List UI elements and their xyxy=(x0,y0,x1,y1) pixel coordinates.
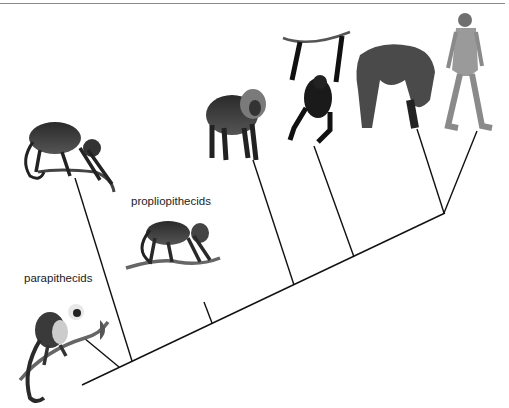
tree-lines xyxy=(75,129,477,385)
parapithecid-illustration xyxy=(20,304,108,401)
label-propliopithecids: propliopithecids xyxy=(131,195,211,207)
propliopithecid-illustration xyxy=(126,221,220,268)
new-world-monkey-illustration xyxy=(26,122,114,192)
label-parapithecids: parapithecids xyxy=(24,272,92,284)
gorilla-illustration xyxy=(356,44,435,128)
old-world-monkey-illustration xyxy=(206,89,266,160)
cladogram-tree xyxy=(0,0,509,408)
gibbon-illustration xyxy=(283,32,350,142)
human-illustration xyxy=(448,13,492,128)
